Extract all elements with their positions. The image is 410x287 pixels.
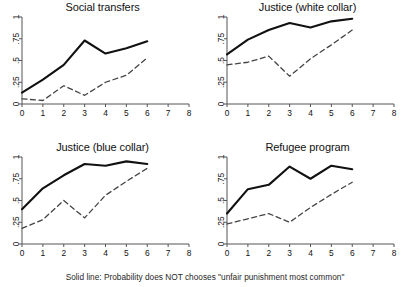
plot-area-justice-blue-collar: 0.25.5.751012345678 [0,153,205,265]
x-tick-label: 1 [41,108,46,118]
x-tick-label: 7 [371,108,376,118]
plot-area-justice-white-collar: 0.25.5.751012345678 [205,13,410,125]
series-line-solid [227,166,352,214]
series-line-dashed [227,30,352,76]
x-tick-label: 7 [166,248,171,258]
y-tick-label: .75 [216,173,226,185]
axis-frame [22,157,189,244]
x-tick-label: 6 [145,108,150,118]
y-tick-label: .25 [11,216,21,228]
x-tick-label: 5 [124,248,129,258]
y-tick-label: 1 [216,154,226,159]
y-tick-label: 1 [216,14,226,19]
figure-caption: Solid line: Probability does NOT chooses… [0,272,410,283]
axis-frame [22,17,189,104]
x-tick-label: 7 [166,108,171,118]
x-tick-label: 6 [350,248,355,258]
panel-justice-white-collar: Justice (white collar) 0.25.5.7510123456… [205,0,410,140]
x-tick-label: 5 [329,248,334,258]
y-axis-ticks: 0.25.5.751 [216,14,227,106]
x-tick-label: 0 [225,248,230,258]
y-tick-label: .5 [11,197,21,204]
series-line-dashed [22,168,147,228]
panel-justice-blue-collar: Justice (blue collar) 0.25.5.75101234567… [0,140,205,268]
series-line-solid [22,40,147,92]
panel-social-transfers: Social transfers 0.25.5.751012345678 [0,0,205,140]
x-tick-label: 8 [392,108,397,118]
x-axis-ticks: 012345678 [20,104,192,118]
panel-grid: Social transfers 0.25.5.751012345678 Jus… [0,0,410,268]
multi-panel-line-chart-figure: Social transfers 0.25.5.751012345678 Jus… [0,0,410,287]
x-tick-label: 3 [287,248,292,258]
y-tick-label: 0 [216,101,226,106]
series-line-dashed [22,58,147,101]
x-tick-label: 5 [124,108,129,118]
x-tick-label: 5 [329,108,334,118]
y-tick-label: .25 [216,76,226,88]
plot-area-refugee-program: 0.25.5.751012345678 [205,153,410,265]
x-axis-ticks: 012345678 [225,244,397,258]
x-tick-label: 2 [61,248,66,258]
x-tick-label: 8 [187,108,192,118]
x-tick-label: 3 [82,108,87,118]
x-tick-label: 0 [225,108,230,118]
x-tick-label: 4 [308,248,313,258]
y-tick-label: .5 [11,57,21,64]
x-tick-label: 0 [20,248,25,258]
x-tick-label: 1 [246,108,251,118]
x-tick-label: 4 [308,108,313,118]
x-tick-label: 4 [103,108,108,118]
x-tick-label: 7 [371,248,376,258]
panel-refugee-program: Refugee program 0.25.5.751012345678 [205,140,410,268]
y-tick-label: .5 [216,57,226,64]
y-tick-label: .75 [11,173,21,185]
y-tick-label: .25 [216,216,226,228]
axis-frame [227,157,394,244]
y-axis-ticks: 0.25.5.751 [11,154,22,246]
series-line-solid [22,161,147,209]
x-tick-label: 6 [145,248,150,258]
y-tick-label: .75 [216,33,226,45]
x-tick-label: 3 [287,108,292,118]
x-tick-label: 3 [82,248,87,258]
y-tick-label: 0 [216,241,226,246]
y-tick-label: 0 [11,101,21,106]
x-axis-ticks: 012345678 [225,104,397,118]
series-line-dashed [227,182,352,224]
x-tick-label: 8 [187,248,192,258]
y-axis-ticks: 0.25.5.751 [216,154,227,246]
x-tick-label: 1 [41,248,46,258]
x-tick-label: 0 [20,108,25,118]
y-tick-label: .5 [216,197,226,204]
x-tick-label: 4 [103,248,108,258]
plot-area-social-transfers: 0.25.5.751012345678 [0,13,205,125]
x-tick-label: 1 [246,248,251,258]
x-tick-label: 2 [61,108,66,118]
y-tick-label: 1 [11,154,21,159]
x-axis-ticks: 012345678 [20,244,192,258]
y-tick-label: 0 [11,241,21,246]
y-tick-label: .75 [11,33,21,45]
x-tick-label: 8 [392,248,397,258]
series-line-solid [227,19,352,55]
y-tick-label: .25 [11,76,21,88]
x-tick-label: 2 [266,108,271,118]
x-tick-label: 6 [350,108,355,118]
y-tick-label: 1 [11,14,21,19]
x-tick-label: 2 [266,248,271,258]
y-axis-ticks: 0.25.5.751 [11,14,22,106]
